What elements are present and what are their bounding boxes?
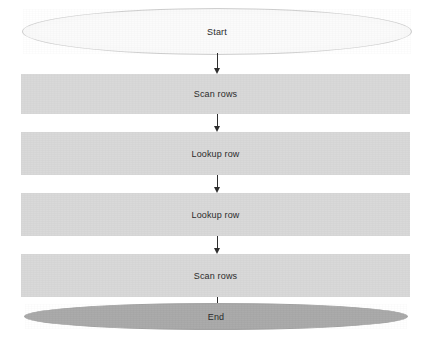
flow-node-scan-rows-2[interactable]: Scan rows xyxy=(21,254,410,297)
flow-node-scan-rows-1-label: Scan rows xyxy=(21,89,410,99)
flow-node-start[interactable]: Start xyxy=(22,8,412,55)
flow-edge-lookup-row-1-to-lookup-row-2 xyxy=(211,175,225,193)
flow-node-end[interactable]: End xyxy=(24,303,408,330)
flow-node-lookup-row-1-label: Lookup row xyxy=(21,149,410,159)
flow-node-lookup-row-1[interactable]: Lookup row xyxy=(21,132,410,175)
flowchart-canvas: Start Scan rows Lookup row Lookup row Sc… xyxy=(0,0,431,343)
flow-node-start-label: Start xyxy=(23,27,411,37)
flow-edge-scan-rows-1-to-lookup-row-1 xyxy=(211,114,225,132)
flow-node-lookup-row-2[interactable]: Lookup row xyxy=(21,193,410,236)
flow-node-scan-rows-2-label: Scan rows xyxy=(21,271,410,281)
flow-edge-lookup-row-2-to-scan-rows-2 xyxy=(211,236,225,254)
flow-node-lookup-row-2-label: Lookup row xyxy=(21,210,410,220)
flow-node-end-label: End xyxy=(25,312,407,322)
flow-edge-start-to-scan-rows-1 xyxy=(211,53,225,74)
edge-shaft xyxy=(217,53,218,69)
flow-node-scan-rows-1[interactable]: Scan rows xyxy=(21,74,410,114)
